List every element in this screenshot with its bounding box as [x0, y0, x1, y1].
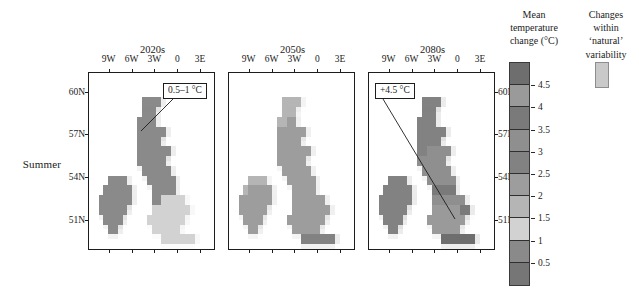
x-axis-tick [457, 69, 458, 73]
colorbar-tick [531, 85, 535, 86]
row-label-summer: Summer [6, 158, 78, 170]
y-axis-tick-label: 60N [61, 87, 85, 97]
x-axis-tick [317, 249, 318, 253]
colorbar-tick [531, 174, 535, 175]
x-axis-tick [177, 249, 178, 253]
y-axis-tick-label: 51N [61, 215, 85, 225]
colorbar-tick-label: 2.5 [538, 169, 550, 179]
x-axis-tick-label: 3E [335, 54, 346, 64]
x-axis-tick-label: 0 [175, 54, 180, 64]
x-axis-tick [200, 249, 201, 253]
x-axis-tick-label: 9W [382, 54, 396, 64]
x-axis-tick-label: 9W [242, 54, 256, 64]
natural-variability-title-line: variability [575, 48, 637, 61]
x-axis-tick [340, 69, 341, 73]
x-axis-tick-label: 3E [195, 54, 206, 64]
y-axis-tick [85, 92, 89, 93]
colorbar-segment [510, 107, 529, 129]
y-axis-tick [85, 134, 89, 135]
map-panel-2020s[interactable]: 2020s 0.5–1 °C 9W6W3W03E60N57N54N51N [88, 72, 215, 250]
x-axis-tick [457, 249, 458, 253]
x-axis-tick-label: 6W [125, 54, 139, 64]
colorbar-segment [510, 241, 529, 263]
x-axis-tick-label: 3W [428, 54, 442, 64]
map-canvas-2020s [89, 73, 214, 249]
colorbar-tick [531, 130, 535, 131]
x-axis-tick [272, 249, 273, 253]
y-axis-tick [85, 177, 89, 178]
natural-variability-title-line: Changes [575, 8, 637, 21]
colorbar-tick-label: 4.5 [538, 80, 550, 90]
x-axis-tick [154, 249, 155, 253]
colorbar-tick [531, 152, 535, 153]
x-axis-tick-label: 3E [475, 54, 486, 64]
colorbar-title-line: temperature [497, 21, 571, 34]
x-axis-tick [177, 69, 178, 73]
colorbar-tick [531, 107, 535, 108]
y-axis-tick-label: 54N [61, 172, 85, 182]
x-axis-tick [317, 69, 318, 73]
colorbar-tick-label: 1.5 [538, 213, 550, 223]
colorbar-tick-label: 3 [538, 147, 543, 157]
x-axis-tick [132, 69, 133, 73]
x-axis-tick [340, 249, 341, 253]
colorbar-tick-label: 0.5 [538, 258, 550, 268]
colorbar-tick [531, 263, 535, 264]
colorbar-tick-label: 3.5 [538, 125, 550, 135]
colorbar-tick-label: 4 [538, 102, 543, 112]
colorbar[interactable]: 4.543.532.521.510.5 [509, 62, 530, 286]
callout-label-2020s: 0.5–1 °C [163, 83, 207, 99]
natural-variability-title-line: within ‘natural’ [575, 21, 637, 47]
map-panel-2050s[interactable]: 2050s 9W6W3W03E [228, 72, 355, 250]
x-axis-tick [412, 69, 413, 73]
x-axis-tick [109, 69, 110, 73]
x-axis-tick [200, 69, 201, 73]
map-canvas-2080s [369, 73, 494, 249]
callout-label-2080s: +4.5 °C [375, 83, 415, 99]
x-axis-tick [154, 69, 155, 73]
colorbar-tick-label: 2 [538, 191, 543, 201]
x-axis-tick-label: 6W [265, 54, 279, 64]
colorbar-segment [510, 196, 529, 218]
x-axis-tick [249, 249, 250, 253]
x-axis-tick [434, 69, 435, 73]
colorbar-title-line: Mean [497, 8, 571, 21]
x-axis-tick-label: 0 [315, 54, 320, 64]
x-axis-tick [294, 249, 295, 253]
x-axis-tick [389, 249, 390, 253]
colorbar-segment [510, 85, 529, 107]
x-axis-tick [249, 69, 250, 73]
map-canvas-2050s [229, 73, 354, 249]
x-axis-tick [294, 69, 295, 73]
x-axis-tick [389, 69, 390, 73]
x-axis-tick-label: 6W [405, 54, 419, 64]
natural-variability-swatch [595, 62, 609, 88]
x-axis-tick [272, 69, 273, 73]
colorbar-segment [510, 263, 529, 285]
colorbar-segment [510, 218, 529, 240]
x-axis-tick-label: 9W [102, 54, 116, 64]
x-axis-tick-label: 0 [455, 54, 460, 64]
colorbar-tick-label: 1 [538, 236, 543, 246]
colorbar-tick [531, 196, 535, 197]
colorbar-segment [510, 174, 529, 196]
colorbar-segment [510, 152, 529, 174]
x-axis-tick [132, 249, 133, 253]
x-axis-tick [480, 249, 481, 253]
climate-projection-figure: Summer 2020s 0.5–1 °C 9W6W3W03E60N57N54N… [0, 0, 639, 291]
colorbar-segment [510, 63, 529, 85]
x-axis-tick-label: 3W [148, 54, 162, 64]
colorbar-tick [531, 218, 535, 219]
x-axis-tick-label: 3W [288, 54, 302, 64]
y-axis-tick [85, 220, 89, 221]
x-axis-tick [412, 249, 413, 253]
colorbar-segment [510, 130, 529, 152]
x-axis-tick [434, 249, 435, 253]
y-axis-tick-label: 57N [61, 129, 85, 139]
x-axis-tick [109, 249, 110, 253]
map-panel-2080s[interactable]: 2080s +4.5 °C 9W6W3W03E60N57N54N51N [368, 72, 495, 250]
colorbar-title: Meantemperaturechange (°C) [497, 8, 571, 48]
colorbar-tick [531, 241, 535, 242]
natural-variability-title: Changeswithin ‘natural’variability [575, 8, 637, 61]
colorbar-title-line: change (°C) [497, 34, 571, 47]
